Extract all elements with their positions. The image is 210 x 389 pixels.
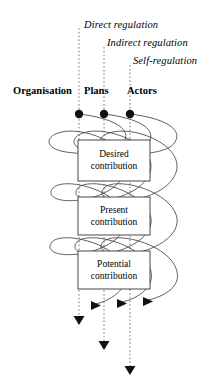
present-contribution-line2: contribution [78, 217, 150, 229]
down-arrow-group [74, 316, 136, 375]
present-contribution-line1: Present [78, 205, 150, 217]
potential-contribution-label: Potential contribution [78, 259, 150, 282]
desired-contribution-line1: Desired [78, 149, 150, 161]
self-regulation-arrow [125, 366, 136, 375]
column-label-plans: Plans [84, 86, 109, 97]
desired-contribution-line2: contribution [78, 161, 150, 173]
desired-contribution-label: Desired contribution [78, 149, 150, 172]
actors-node-right [126, 110, 134, 118]
plans-node-left [75, 110, 83, 118]
organisation-spiral-arrow [91, 301, 101, 310]
spiral-regulation-diagram: Direct regulation Indirect regulation Se… [0, 0, 210, 389]
column-label-organisation: Organisation [13, 86, 72, 97]
indirect-regulation-arrow [99, 341, 110, 350]
potential-contribution-line2: contribution [78, 271, 150, 283]
potential-contribution-line1: Potential [78, 259, 150, 271]
direct-regulation-label: Direct regulation [84, 20, 158, 31]
spiral-arrow-group [91, 297, 153, 310]
node-group [75, 110, 134, 118]
plans-spiral-arrow [117, 299, 127, 308]
indirect-regulation-label: Indirect regulation [107, 38, 188, 49]
direct-regulation-arrow [74, 316, 85, 325]
self-regulation-label: Self-regulation [133, 56, 197, 67]
actors-spiral-arrow [143, 297, 153, 306]
present-contribution-label: Present contribution [78, 205, 150, 228]
plans-node-middle [100, 110, 108, 118]
column-label-actors: Actors [127, 86, 157, 97]
